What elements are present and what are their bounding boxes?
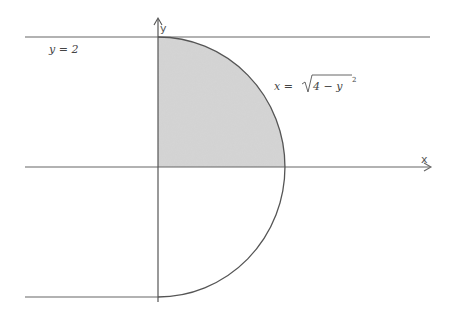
- x-axis-label: x: [421, 153, 428, 166]
- label-curve-equation: x = 4 − y 2: [274, 75, 356, 93]
- svg-text:2: 2: [352, 76, 356, 84]
- label-y-equals-2: y = 2: [48, 43, 78, 56]
- diagram-canvas: y x y = 2 x = 4 − y 2: [0, 0, 454, 320]
- svg-text:4 − y: 4 − y: [312, 80, 343, 93]
- svg-text:x =: x =: [274, 80, 293, 93]
- y-axis-label: y: [160, 22, 167, 35]
